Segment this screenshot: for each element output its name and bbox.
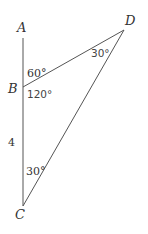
angle-label-bdc: 30° <box>91 47 110 59</box>
angle-label-abd: 60° <box>27 67 47 80</box>
point-label-c: C <box>15 207 25 222</box>
side-length-bc: 4 <box>8 136 15 149</box>
angle-label-dbc: 120° <box>27 88 52 100</box>
point-label-b: B <box>7 81 18 96</box>
angle-label-bcd: 30° <box>26 165 46 178</box>
triangle-diagram: A D B C 4 60° 120° 30° 30° <box>0 0 148 234</box>
point-label-a: A <box>16 20 26 35</box>
point-label-d: D <box>124 13 136 28</box>
